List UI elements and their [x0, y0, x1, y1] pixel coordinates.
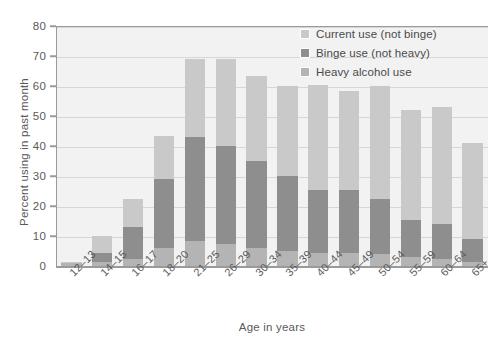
- bar-segment-binge-use: [277, 176, 297, 251]
- y-tick-label: 80: [0, 20, 46, 32]
- y-tick-label: 40: [0, 140, 46, 152]
- y-tick-label: 0: [0, 260, 46, 272]
- x-axis: 12–1314–1516–1718–2021–2526–2930–3435–39…: [56, 270, 488, 318]
- bar-segment-current-use: [432, 107, 452, 224]
- bar-segment-binge-use: [216, 146, 236, 244]
- legend-label: Heavy alcohol use: [316, 66, 412, 78]
- bar-segment-current-use: [308, 85, 328, 190]
- legend-swatch-icon: [300, 29, 310, 39]
- bar-segment-current-use: [401, 110, 421, 220]
- bar-segment-current-use: [462, 143, 482, 239]
- legend-label: Binge use (not heavy): [316, 47, 430, 59]
- bar-segment-current-use: [370, 86, 390, 199]
- legend-swatch-icon: [300, 67, 310, 77]
- bar-segment-current-use: [92, 236, 112, 253]
- legend-item: Binge use (not heavy): [300, 43, 490, 62]
- bar-group: [246, 26, 266, 266]
- bar-group: [216, 26, 236, 266]
- y-tick-label: 60: [0, 80, 46, 92]
- bar-segment-current-use: [277, 86, 297, 176]
- bar-segment-binge-use: [339, 190, 359, 253]
- bar-segment-binge-use: [401, 220, 421, 258]
- y-tick-label: 20: [0, 200, 46, 212]
- bar-segment-current-use: [123, 199, 143, 228]
- legend-item: Heavy alcohol use: [300, 62, 490, 81]
- y-axis-title: Percent using in past month: [18, 42, 30, 262]
- legend: Current use (not binge)Binge use (not he…: [300, 24, 490, 81]
- bar-segment-current-use: [339, 91, 359, 190]
- bar-segment-binge-use: [370, 199, 390, 255]
- bar-group: [92, 26, 112, 266]
- bar-segment-current-use: [154, 136, 174, 180]
- bar-segment-binge-use: [185, 137, 205, 241]
- bar-group: [185, 26, 205, 266]
- bar-segment-current-use: [246, 76, 266, 162]
- bar-segment-current-use: [216, 59, 236, 146]
- bar-segment-binge-use: [246, 161, 266, 248]
- bar-segment-current-use: [185, 59, 205, 137]
- y-tick-label: 50: [0, 110, 46, 122]
- bar-group: [123, 26, 143, 266]
- bar-chart: Percent using in past month 010203040506…: [0, 0, 500, 344]
- legend-label: Current use (not binge): [316, 28, 437, 40]
- bar-segment-binge-use: [154, 179, 174, 248]
- bar-group: [277, 26, 297, 266]
- x-axis-title: Age in years: [56, 321, 488, 333]
- bar-group: [61, 26, 81, 266]
- y-tick-label: 70: [0, 50, 46, 62]
- bar-segment-binge-use: [308, 190, 328, 253]
- y-tick-label: 10: [0, 230, 46, 242]
- bar-group: [154, 26, 174, 266]
- y-tick-label: 30: [0, 170, 46, 182]
- legend-swatch-icon: [300, 48, 310, 58]
- legend-item: Current use (not binge): [300, 24, 490, 43]
